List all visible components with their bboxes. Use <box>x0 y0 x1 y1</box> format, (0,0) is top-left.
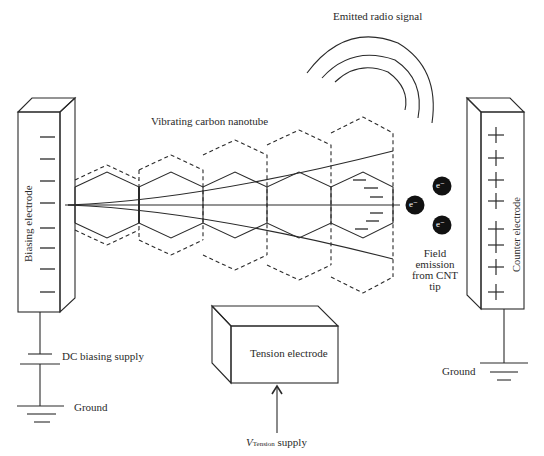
nanotube-solid-outline <box>65 151 400 259</box>
v-suffix: supply <box>275 436 307 448</box>
nanotube-label: Vibrating carbon nanotube <box>151 115 268 128</box>
ground-right-label: Ground <box>442 365 476 378</box>
electron-label: e⁻ <box>436 179 445 192</box>
field-emission-line: tip <box>410 281 460 292</box>
v-tension-supply-label: VTension supply <box>246 436 307 451</box>
biasing-electrode-label: Biasing electrode <box>22 185 34 262</box>
v-tension-arrow <box>272 386 282 433</box>
counter-plus-marks <box>488 127 504 300</box>
ground-right-symbol <box>480 309 528 380</box>
v-symbol: V <box>246 436 253 448</box>
emitted-radio-signal-label: Emitted radio signal <box>333 10 422 23</box>
ground-left-label: Ground <box>74 401 108 414</box>
dc-biasing-supply-label: DC biasing supply <box>62 350 144 363</box>
radio-signal-arcs <box>307 37 433 123</box>
tension-electrode <box>212 306 338 383</box>
v-subscript: Tension <box>253 440 275 448</box>
electron-label: e⁻ <box>436 218 445 231</box>
electron-label: e⁻ <box>409 198 418 211</box>
tension-electrode-label: Tension electrode <box>250 347 328 360</box>
diagram-canvas <box>0 0 544 456</box>
dc-biasing-circuit <box>17 312 64 422</box>
biasing-minus-marks <box>40 137 55 292</box>
counter-electrode-label: Counter electrode <box>511 197 522 272</box>
field-emission-label: Field emission from CNT tip <box>410 248 460 292</box>
